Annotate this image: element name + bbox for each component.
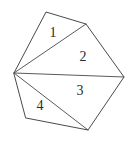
region-label-2: 2 — [80, 50, 87, 64]
region-label-3: 3 — [77, 84, 84, 98]
polygon-diagram-svg — [0, 0, 130, 151]
polygon-figure: 1 2 3 4 — [0, 0, 130, 151]
region-label-4: 4 — [37, 99, 44, 113]
region-label-1: 1 — [50, 26, 57, 40]
